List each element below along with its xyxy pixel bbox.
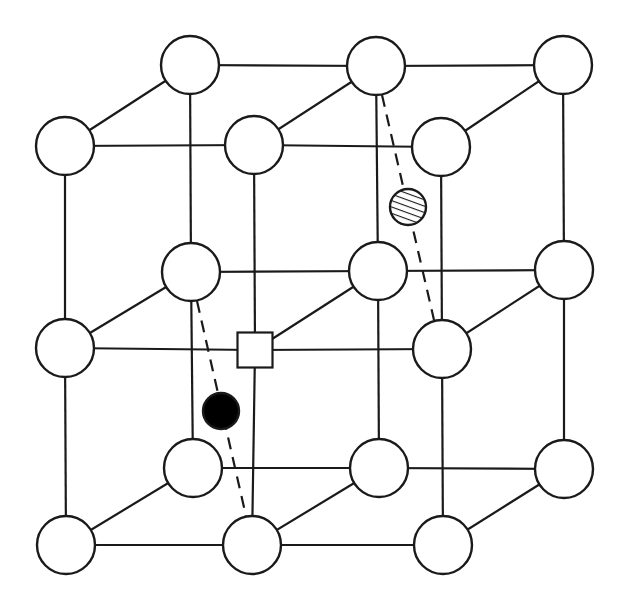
- lattice-defects: [203, 189, 426, 429]
- bond-line: [441, 147, 442, 349]
- atom-circle: [37, 516, 95, 574]
- atom-circle: [36, 117, 94, 175]
- bond-line: [563, 65, 564, 270]
- hatched-impurity-atom: [390, 189, 426, 225]
- atom-circle: [534, 36, 592, 94]
- atom-circle: [413, 320, 471, 378]
- atom-circle: [225, 116, 283, 174]
- atom-circle: [36, 319, 94, 377]
- atom-circle: [412, 118, 470, 176]
- solid-interstitial-atom: [203, 393, 239, 429]
- atom-circle: [223, 516, 281, 574]
- atom-circle: [349, 242, 407, 300]
- lattice-bonds: [65, 65, 564, 545]
- atom-circle: [161, 36, 219, 94]
- atom-circle: [414, 516, 472, 574]
- atom-circle: [162, 243, 220, 301]
- lattice-diagram: [0, 0, 627, 606]
- vacancy-square: [238, 333, 273, 368]
- atom-circle: [535, 241, 593, 299]
- bond-line: [254, 145, 255, 350]
- bond-line: [376, 66, 378, 271]
- bond-line: [190, 65, 191, 272]
- atom-circle: [347, 37, 405, 95]
- atom-circle: [350, 439, 408, 497]
- atom-circle: [164, 439, 222, 497]
- atom-circle: [535, 440, 593, 498]
